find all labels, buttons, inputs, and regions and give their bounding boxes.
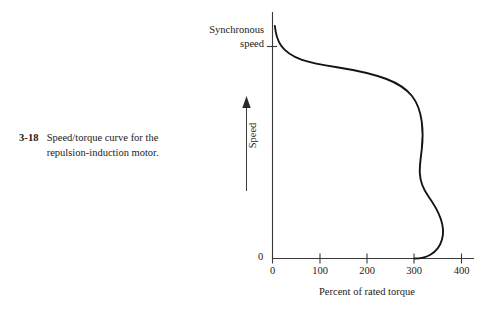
y-axis-zero-label: 0	[258, 251, 263, 262]
speed-torque-curve	[275, 26, 443, 259]
figure-page: 3-18 Speed/torque curve for the repulsio…	[0, 0, 503, 315]
synchronous-speed-line-2: speed	[144, 37, 264, 51]
synchronous-speed-line-1: Synchronous	[144, 23, 264, 37]
x-tick-label-200: 200	[353, 265, 381, 276]
x-tick-label-100: 100	[306, 265, 334, 276]
y-axis-title: Speed	[247, 106, 258, 166]
synchronous-speed-label: Synchronous speed	[144, 23, 264, 50]
x-axis-title: Percent of rated torque	[272, 286, 462, 297]
x-tick-label-0: 0	[263, 265, 283, 276]
x-tick-label-300: 300	[400, 265, 428, 276]
x-tick-label-400: 400	[448, 265, 476, 276]
